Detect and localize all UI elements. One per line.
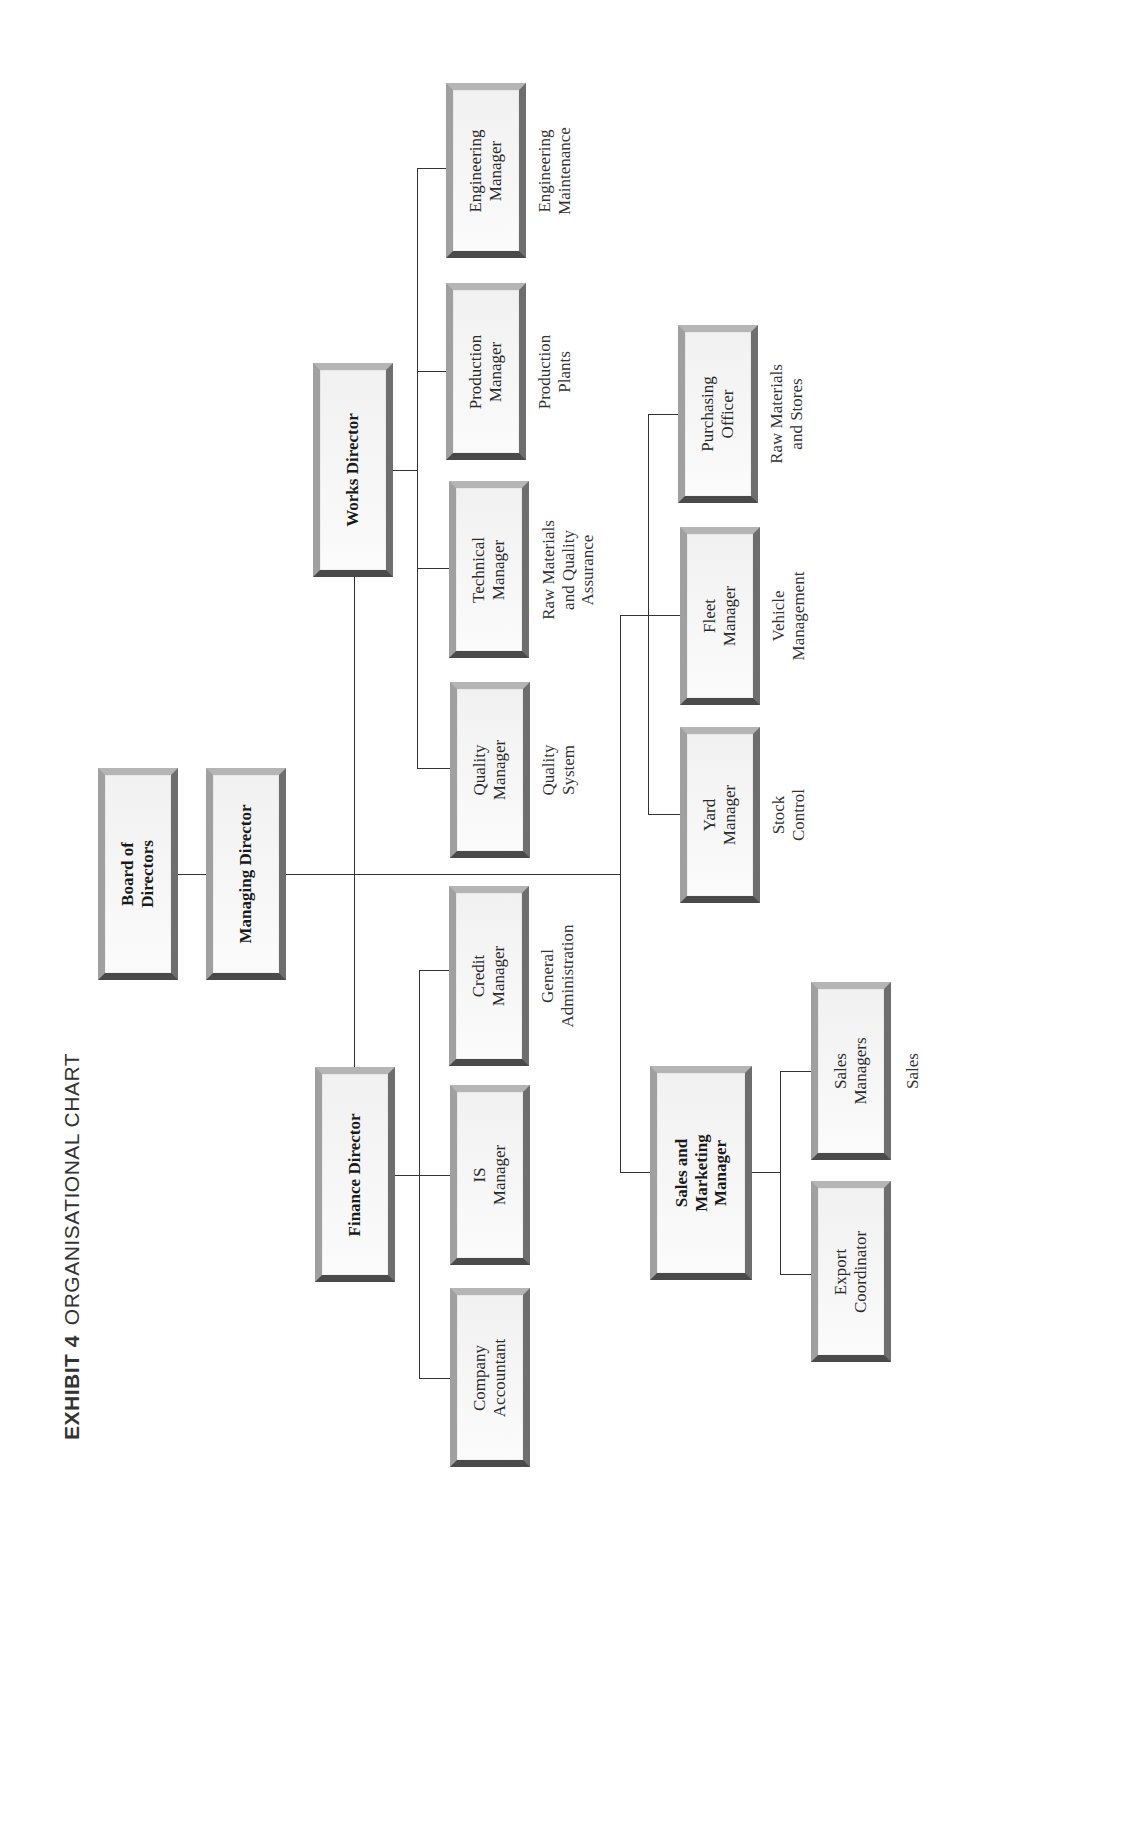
- node-export-coordinator: Export Coordinator: [811, 1181, 891, 1362]
- node-engineering-manager: Engineering Manager: [446, 83, 526, 258]
- node-credit-manager: Credit Manager: [449, 886, 529, 1066]
- connector: [417, 168, 418, 768]
- node-finance-director: Finance Director: [315, 1067, 395, 1282]
- connector: [419, 970, 449, 971]
- node-label: Board of Directors: [118, 840, 157, 908]
- note-label: Production Plants: [535, 334, 574, 409]
- connector: [395, 1175, 450, 1176]
- note-quality: Quality System: [534, 682, 584, 858]
- connector: [620, 615, 680, 616]
- note-production: Production Plants: [530, 283, 580, 460]
- connector: [752, 1172, 780, 1173]
- note-label: Quality System: [539, 745, 578, 796]
- note-label: General Administration: [538, 925, 577, 1028]
- node-is-manager: IS Manager: [450, 1085, 530, 1265]
- node-label: Credit Manager: [469, 946, 508, 1006]
- note-technical: Raw Materials and Quality Assurance: [533, 481, 603, 658]
- node-label: Finance Director: [345, 1113, 365, 1236]
- note-fleet: Vehicle Management: [764, 527, 814, 705]
- node-label: Production Manager: [466, 334, 505, 409]
- node-purchasing-officer: Purchasing Officer: [678, 325, 758, 503]
- node-label: Quality Manager: [470, 740, 509, 800]
- node-label: Company Accountant: [470, 1338, 509, 1416]
- node-label: Managing Director: [236, 805, 256, 944]
- note-label: Engineering Maintenance: [535, 127, 574, 215]
- connector: [620, 1172, 650, 1173]
- node-label: Engineering Manager: [466, 129, 505, 212]
- node-label: IS Manager: [470, 1145, 509, 1205]
- node-label: Sales and Marketing Manager: [672, 1134, 731, 1211]
- chart-name: ORGANISATIONAL CHART: [60, 1053, 83, 1325]
- node-sales-managers: Sales Managers: [811, 982, 891, 1160]
- node-label: Sales Managers: [831, 1037, 870, 1104]
- node-fleet-manager: Fleet Manager: [680, 527, 760, 705]
- connector: [780, 1274, 811, 1275]
- node-board-of-directors: Board of Directors: [98, 768, 178, 980]
- node-production-manager: Production Manager: [446, 283, 526, 460]
- note-sales: Sales: [893, 982, 933, 1160]
- node-label: Purchasing Officer: [698, 376, 737, 452]
- chart-title: EXHIBIT 4ORGANISATIONAL CHART: [60, 1053, 84, 1440]
- connector: [354, 577, 355, 1067]
- node-label: Export Coordinator: [831, 1230, 870, 1312]
- connector: [417, 568, 449, 569]
- connector: [648, 814, 680, 815]
- note-label: Raw Materials and Quality Assurance: [539, 520, 598, 620]
- note-label: Stock Control: [769, 789, 808, 841]
- connector: [417, 168, 446, 169]
- note-yard: Stock Control: [764, 727, 814, 903]
- connector: [780, 1071, 781, 1274]
- node-label: Fleet Manager: [700, 586, 739, 646]
- note-label: Raw Materials and Stores: [767, 364, 806, 464]
- connector: [648, 414, 649, 814]
- node-managing-director: Managing Director: [206, 768, 286, 980]
- note-purchasing: Raw Materials and Stores: [762, 325, 812, 503]
- node-company-accountant: Company Accountant: [450, 1288, 530, 1467]
- node-yard-manager: Yard Manager: [680, 727, 760, 903]
- connector: [620, 615, 621, 1173]
- node-quality-manager: Quality Manager: [450, 682, 530, 858]
- connector: [393, 470, 417, 471]
- note-label: Sales: [903, 1053, 923, 1089]
- node-works-director: Works Director: [313, 363, 393, 577]
- exhibit-label: EXHIBIT 4: [60, 1335, 83, 1440]
- note-credit: General Administration: [533, 886, 583, 1066]
- node-sales-marketing-manager: Sales and Marketing Manager: [650, 1066, 752, 1280]
- connector: [417, 371, 446, 372]
- note-engineering: Engineering Maintenance: [530, 83, 580, 258]
- connector: [419, 970, 420, 1378]
- connector: [286, 874, 620, 875]
- node-label: Works Director: [343, 413, 363, 526]
- node-label: Technical Manager: [469, 537, 508, 603]
- note-label: Vehicle Management: [769, 572, 808, 661]
- node-label: Yard Manager: [700, 785, 739, 845]
- connector: [780, 1071, 811, 1072]
- connector: [178, 874, 206, 875]
- connector: [648, 414, 678, 415]
- connector: [419, 1378, 450, 1379]
- connector: [417, 768, 450, 769]
- node-technical-manager: Technical Manager: [449, 481, 529, 658]
